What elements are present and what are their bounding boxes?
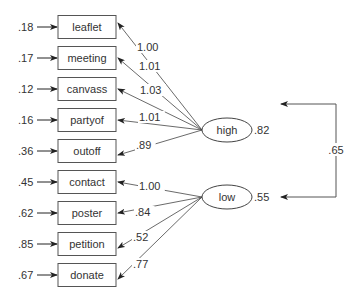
indicator-label: meeting bbox=[67, 52, 106, 64]
indicator-label: petition bbox=[69, 238, 104, 250]
loading-arrow bbox=[118, 197, 202, 279]
indicator-label: partyof bbox=[70, 114, 105, 126]
indicator-contact: .45contact1.00 bbox=[18, 171, 202, 198]
loading-label: 1.01 bbox=[139, 111, 160, 123]
error-variance-label: .12 bbox=[18, 83, 33, 95]
loading-label: 1.01 bbox=[139, 60, 160, 72]
indicator-label: donate bbox=[70, 269, 104, 281]
error-variance-label: .16 bbox=[18, 114, 33, 126]
covariance-label: .65 bbox=[328, 144, 343, 156]
loading-label: .77 bbox=[133, 258, 148, 270]
factor-high: high.82 bbox=[202, 118, 269, 142]
loading-label: .89 bbox=[136, 139, 151, 151]
error-variance-label: .85 bbox=[18, 238, 33, 250]
sem-diagram: .18leaflet1.00.17meeting1.01.12canvass1.… bbox=[0, 0, 359, 303]
loading-label: 1.00 bbox=[139, 180, 160, 192]
indicator-partyof: .16partyof1.01 bbox=[18, 109, 202, 132]
factor-label: high bbox=[217, 124, 238, 136]
indicator-label: leaflet bbox=[72, 21, 101, 33]
error-variance-label: .18 bbox=[18, 21, 33, 33]
error-variance-label: .62 bbox=[18, 207, 33, 219]
indicator-label: canvass bbox=[67, 83, 108, 95]
error-variance-label: .17 bbox=[18, 52, 33, 64]
indicator-label: outoff bbox=[73, 145, 101, 157]
loading-label: 1.00 bbox=[137, 41, 158, 53]
error-variance-label: .67 bbox=[18, 269, 33, 281]
indicator-label: poster bbox=[72, 207, 103, 219]
indicator-poster: .62poster.84 bbox=[18, 197, 202, 225]
indicator-outoff: .36outoff.89 bbox=[18, 130, 202, 163]
loading-arrow bbox=[118, 130, 202, 155]
factor-label: low bbox=[219, 191, 236, 203]
factor-variance-label: .55 bbox=[254, 191, 269, 203]
loading-label: .84 bbox=[135, 206, 150, 218]
loading-label: 1.03 bbox=[140, 84, 161, 96]
factor-variance-label: .82 bbox=[254, 124, 269, 136]
error-variance-label: .45 bbox=[18, 176, 33, 188]
loading-label: .52 bbox=[133, 231, 148, 243]
error-variance-label: .36 bbox=[18, 145, 33, 157]
indicator-label: contact bbox=[69, 176, 104, 188]
factor-low: low.55 bbox=[202, 185, 269, 209]
